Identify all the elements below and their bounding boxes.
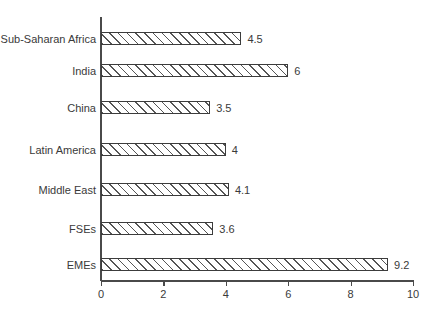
x-axis-tick-label: 4 — [223, 288, 229, 300]
category-label: Middle East — [39, 184, 96, 196]
category-label: FSEs — [69, 223, 96, 235]
bar — [101, 222, 213, 235]
bar-value-label: 9.2 — [394, 259, 409, 271]
bar — [101, 101, 210, 114]
bar-value-label: 4.5 — [247, 33, 262, 45]
bar — [101, 32, 241, 45]
x-axis-tick — [226, 281, 227, 286]
bar-value-label: 4 — [232, 144, 238, 156]
bar — [101, 64, 288, 77]
category-label: India — [72, 65, 96, 77]
category-label: Latin America — [29, 144, 96, 156]
bar-value-label: 3.5 — [216, 102, 231, 114]
x-axis-tick-label: 6 — [285, 288, 291, 300]
x-axis-tick-label: 8 — [348, 288, 354, 300]
x-axis-tick-label: 2 — [160, 288, 166, 300]
category-label: China — [67, 102, 96, 114]
x-axis-line — [101, 280, 414, 282]
x-axis-tick — [413, 281, 414, 286]
bar-value-label: 3.6 — [219, 223, 234, 235]
bar — [101, 143, 226, 156]
x-axis-tick — [288, 281, 289, 286]
bar — [101, 258, 388, 271]
x-axis-tick-label: 0 — [98, 288, 104, 300]
category-label: EMEs — [67, 259, 96, 271]
bar-value-label: 6 — [294, 65, 300, 77]
x-axis-tick — [101, 281, 102, 286]
bar — [101, 183, 229, 196]
bar-value-label: 4.1 — [235, 184, 250, 196]
x-axis-tick — [163, 281, 164, 286]
bar-chart: 0246810 Sub-Saharan AfricaIndiaChinaLati… — [0, 0, 433, 314]
x-axis-tick-label: 10 — [407, 288, 419, 300]
x-axis-tick — [351, 281, 352, 286]
category-label: Sub-Saharan Africa — [1, 33, 96, 45]
